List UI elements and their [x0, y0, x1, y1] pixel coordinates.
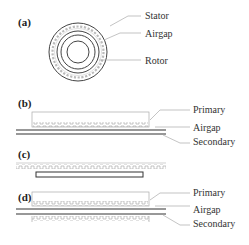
panel-b-label: (b): [18, 97, 32, 110]
panel-a-label: (a): [18, 16, 31, 29]
primary-label-d: Primary: [193, 187, 225, 198]
leader-lines-b: [150, 110, 190, 143]
secondary-b: [16, 130, 166, 134]
primary-label-b: Primary: [193, 104, 225, 115]
panel-c-label: (c): [18, 148, 31, 161]
panel-c: (c): [16, 148, 166, 177]
secondary-c: [36, 172, 143, 177]
rotor-label: Rotor: [145, 55, 168, 66]
airgap-label-a: Airgap: [145, 28, 173, 39]
motor-topology-diagram: (a) Stator Airgap Rotor (b): [0, 0, 249, 245]
secondary-label-b: Secondary: [193, 136, 235, 147]
secondary-label-d: Secondary: [193, 218, 235, 229]
panel-d: (d) Primary Airgap Secondary: [16, 187, 235, 229]
rotary-motor-drawing: [49, 23, 107, 81]
panel-b: (b) Primary Airgap Secondary: [16, 97, 235, 147]
panel-a: (a) Stator Airgap Rotor: [18, 10, 173, 81]
leader-lines-a: [99, 16, 141, 60]
stator-teeth: [53, 27, 104, 78]
stator-label: Stator: [145, 10, 170, 21]
airgap-label-b: Airgap: [193, 122, 221, 133]
primary-lower-d: [32, 216, 149, 222]
secondary-d: [16, 209, 166, 214]
panel-d-label: (d): [18, 191, 32, 204]
airgap-label-d: Airgap: [193, 204, 221, 215]
primary-b: [32, 112, 149, 127]
primary-teeth-c: [16, 164, 166, 169]
primary-upper-d: [32, 192, 149, 206]
